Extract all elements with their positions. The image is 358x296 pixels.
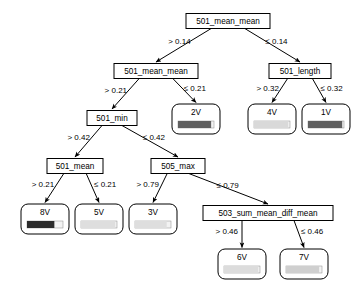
split-node[interactable]: 503_sum_mean_diff_mean — [203, 206, 333, 221]
edge-condition-label: > 0.79 — [136, 180, 159, 189]
split-node[interactable]: 501_mean — [47, 159, 103, 174]
split-node-label: 501_mean — [56, 162, 95, 171]
leaf-distribution-bar — [254, 121, 288, 128]
leaf-node-label: 1V — [321, 108, 332, 117]
leaf-node-label: 8V — [40, 208, 51, 217]
leaf-distribution-bar — [224, 266, 258, 273]
edge-condition-label: > 0.46 — [216, 227, 239, 236]
leaf-distribution-bar — [81, 221, 115, 228]
split-node[interactable]: 501_min — [87, 111, 137, 126]
edge-condition-label: ≤ 0.79 — [217, 181, 240, 190]
edge-condition-label: ≤ 0.14 — [265, 37, 288, 46]
leaf-node[interactable]: 3V — [129, 204, 177, 234]
split-node[interactable]: 501_mean_mean — [114, 64, 198, 79]
edge-condition-label: ≤ 0.21 — [184, 84, 207, 93]
leaf-distribution-bar — [135, 221, 167, 228]
leaf-node[interactable]: 8V — [21, 204, 69, 234]
edge-condition-label: ≤ 0.32 — [320, 84, 343, 93]
edge-condition-label: > 0.32 — [256, 84, 279, 93]
edge-condition-label: ≤ 0.46 — [301, 227, 324, 236]
leaf-distribution-bar — [178, 121, 211, 128]
leaf-distribution-bar — [286, 266, 319, 273]
split-node[interactable]: 505_max — [151, 159, 205, 174]
leaf-node-label: 2V — [191, 108, 202, 117]
decision-tree-svg: 501_mean_mean501_mean_mean501_length501_… — [0, 0, 358, 296]
split-node-label: 501_min — [96, 114, 128, 123]
leaf-distribution-bar — [27, 221, 54, 228]
leaf-node-label: 6V — [237, 253, 248, 262]
decision-tree-figure: 501_mean_mean501_mean_mean501_length501_… — [0, 0, 358, 296]
leaf-node[interactable]: 5V — [75, 204, 123, 234]
edge-condition-label: > 0.21 — [105, 86, 128, 95]
edge-condition-label: ≤ 0.42 — [143, 133, 166, 142]
edge-condition-label: ≤ 0.21 — [94, 180, 117, 189]
leaf-node[interactable]: 2V — [172, 104, 220, 134]
leaf-node-label: 5V — [94, 208, 105, 217]
split-node-label: 501_mean_mean — [196, 17, 260, 26]
split-node[interactable]: 501_length — [269, 64, 331, 79]
leaf-node-label: 4V — [267, 108, 278, 117]
leaf-node[interactable]: 6V — [218, 249, 266, 279]
split-node-label: 501_length — [280, 67, 321, 76]
split-node-label: 501_mean_mean — [124, 67, 188, 76]
leaf-node[interactable]: 7V — [280, 249, 328, 279]
split-node-label: 505_max — [161, 162, 195, 171]
edge-condition-label: > 0.42 — [67, 133, 90, 142]
edge-condition-label: > 0.14 — [168, 37, 191, 46]
leaf-node-label: 7V — [299, 253, 310, 262]
leaf-node[interactable]: 1V — [302, 104, 350, 134]
leaf-node-label: 3V — [148, 208, 159, 217]
edge-condition-label: > 0.21 — [32, 180, 55, 189]
leaf-node[interactable]: 4V — [248, 104, 296, 134]
leaf-distribution-bar — [308, 121, 342, 128]
split-node[interactable]: 501_mean_mean — [186, 14, 270, 29]
split-node-label: 503_sum_mean_diff_mean — [218, 209, 318, 218]
